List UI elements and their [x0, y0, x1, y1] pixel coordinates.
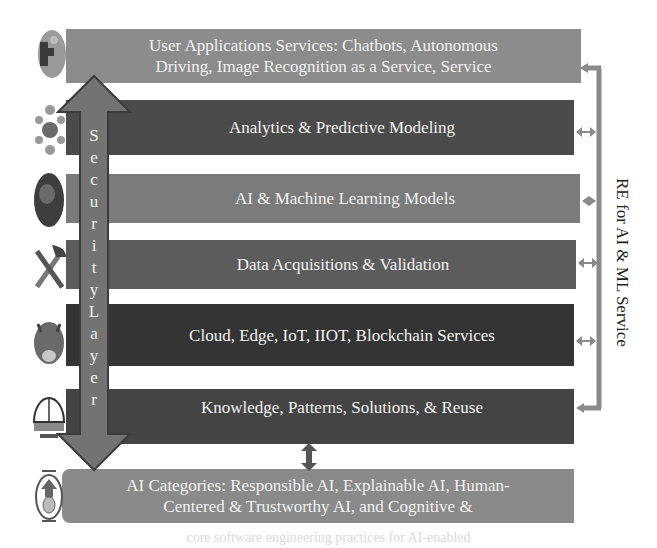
cloud-globe-icon: [32, 318, 66, 368]
layer-cloud-edge: Cloud, Edge, IoT, IIOT, Blockchain Servi…: [110, 304, 574, 366]
layer-analytics-label: Analytics & Predictive Modeling: [229, 117, 455, 138]
layer-cloud-edge-label: Cloud, Edge, IoT, IIOT, Blockchain Servi…: [189, 325, 495, 346]
layer-ai-categories-line2: Centered & Trustworthy AI, and Cognitive…: [126, 496, 509, 517]
layer-knowledge: Knowledge, Patterns, Solutions, & Reuse: [110, 389, 574, 444]
layer-ai-categories: AI Categories: Responsible AI, Explainab…: [62, 469, 574, 523]
brain-image-icon: [33, 172, 65, 228]
layer-data-acquisition-label: Data Acquisitions & Validation: [237, 254, 450, 275]
layer-data-acquisition: Data Acquisitions & Validation: [110, 240, 576, 289]
layer-analytics: Analytics & Predictive Modeling: [110, 100, 574, 155]
layer-ai-ml-models-label: AI & Machine Learning Models: [235, 188, 455, 209]
ai-shield-icon: [34, 467, 64, 523]
re-service-label: RE for AI & ML Service: [608, 178, 632, 408]
layer-ai-ml-models: AI & Machine Learning Models: [110, 174, 580, 223]
layer-user-applications-line1: User Applications Services: Chatbots, Au…: [149, 35, 498, 56]
layer-user-applications-line2: Driving, Image Recognition as a Service,…: [149, 56, 498, 77]
security-layer-label: S e c u r i t y L a y e r: [80, 126, 108, 426]
layer-ai-categories-line1: AI Categories: Responsible AI, Explainab…: [126, 475, 509, 496]
puzzle-globe-icon: [34, 28, 66, 80]
layer-knowledge-label: Knowledge, Patterns, Solutions, & Reuse: [201, 397, 483, 418]
dome-building-icon: [32, 392, 66, 442]
footer-fragment: core software engineering practices for …: [0, 530, 657, 548]
re-service-connector: [574, 60, 610, 420]
knowledge-categories-arrow: [301, 443, 317, 471]
tools-icon: [32, 243, 68, 291]
network-nodes-icon: [34, 100, 66, 160]
layer-user-applications: User Applications Services: Chatbots, Au…: [66, 29, 581, 83]
